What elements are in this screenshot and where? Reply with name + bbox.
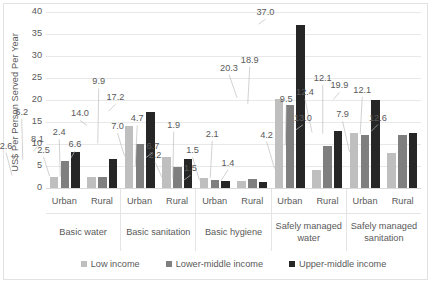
- y-axis-tick: 40: [32, 7, 42, 16]
- bar[interactable]: [50, 177, 59, 188]
- bar[interactable]: [398, 135, 407, 188]
- bar[interactable]: [71, 152, 80, 188]
- bar-group: [309, 12, 347, 188]
- x-axis: UrbanRuralUrbanRuralUrbanRuralUrbanRural…: [46, 188, 421, 250]
- plot-area: [46, 12, 421, 188]
- legend-swatch-icon: [289, 261, 295, 267]
- x-axis-subcategory-label: Rural: [84, 189, 122, 213]
- y-axis-tick: 20: [32, 95, 42, 104]
- x-axis-category-label: Basic sanitation: [121, 214, 196, 251]
- bar[interactable]: [200, 178, 209, 188]
- bar[interactable]: [350, 133, 359, 188]
- legend-item[interactable]: Low income: [81, 259, 140, 269]
- x-axis-subcategory-row: UrbanRuralUrbanRuralUrbanRuralUrbanRural…: [46, 189, 421, 213]
- bar-group: [234, 12, 272, 188]
- y-axis-tick: 10: [32, 139, 42, 148]
- x-axis-category-label: Basic hygiene: [196, 214, 271, 251]
- bar[interactable]: [409, 133, 418, 188]
- x-axis-subcategory-label: Rural: [234, 189, 272, 213]
- legend-swatch-icon: [81, 261, 87, 267]
- bar[interactable]: [146, 112, 155, 188]
- x-axis-subcategory-label: Rural: [159, 189, 197, 213]
- y-axis-title-text: US$ Per Person Served Per Year: [10, 33, 20, 172]
- bar[interactable]: [173, 167, 182, 188]
- y-axis-tick: 0: [37, 183, 42, 192]
- bar[interactable]: [184, 159, 193, 188]
- legend-swatch-icon: [166, 261, 172, 267]
- bar[interactable]: [221, 181, 230, 188]
- bar[interactable]: [312, 170, 321, 188]
- bar[interactable]: [387, 153, 396, 188]
- bar[interactable]: [98, 177, 107, 188]
- bar[interactable]: [109, 159, 118, 188]
- y-axis-tick: 5: [37, 161, 42, 170]
- x-axis-subcategory-label: Urban: [272, 189, 310, 213]
- x-axis-subcategory-label: Rural: [309, 189, 347, 213]
- bar[interactable]: [125, 126, 134, 188]
- y-axis-tick: 35: [32, 29, 42, 38]
- x-axis-category-label: Basic water: [46, 214, 121, 251]
- bar-group: [121, 12, 159, 188]
- chart-legend: Low incomeLower-middle incomeUpper-middl…: [46, 254, 421, 274]
- bar-group: [84, 12, 122, 188]
- legend-item[interactable]: Upper-middle income: [289, 259, 386, 269]
- bar-group: [46, 12, 84, 188]
- x-axis-subcategory-label: Urban: [347, 189, 385, 213]
- x-axis-category-label: Safely managed water: [272, 214, 347, 251]
- y-axis-tick: 30: [32, 51, 42, 60]
- bar-groups: [46, 12, 421, 188]
- x-axis-subcategory-label: Urban: [121, 189, 159, 213]
- bar[interactable]: [334, 131, 343, 188]
- bar[interactable]: [323, 146, 332, 188]
- bar[interactable]: [87, 177, 96, 188]
- bar[interactable]: [61, 161, 70, 188]
- bar-group: [346, 12, 384, 188]
- legend-label: Low income: [91, 259, 140, 269]
- bar[interactable]: [296, 25, 305, 188]
- y-axis-tick: 25: [32, 73, 42, 82]
- legend-label: Upper-middle income: [299, 259, 386, 269]
- x-axis-subcategory-label: Urban: [46, 189, 84, 213]
- bar[interactable]: [248, 179, 257, 188]
- x-axis-category-row: Basic waterBasic sanitationBasic hygiene…: [46, 213, 421, 251]
- bar[interactable]: [361, 135, 370, 188]
- bar[interactable]: [136, 144, 145, 188]
- x-axis-subcategory-label: Rural: [384, 189, 421, 213]
- bar-group: [271, 12, 309, 188]
- bar[interactable]: [237, 181, 246, 188]
- bar-group: [196, 12, 234, 188]
- bar[interactable]: [371, 100, 380, 188]
- bar[interactable]: [275, 99, 284, 188]
- chart-container: US$ Per Person Served Per Year 051015202…: [3, 3, 428, 280]
- legend-item[interactable]: Lower-middle income: [166, 259, 263, 269]
- bar[interactable]: [286, 105, 295, 188]
- legend-label: Lower-middle income: [176, 259, 263, 269]
- x-axis-category-label: Safely managed sanitation: [347, 214, 421, 251]
- y-axis-tick: 15: [32, 117, 42, 126]
- y-axis-title: US$ Per Person Served Per Year: [6, 4, 24, 200]
- bar-group: [384, 12, 422, 188]
- x-axis-subcategory-label: Urban: [196, 189, 234, 213]
- bar-group: [159, 12, 197, 188]
- y-axis-tick-labels: 0510152025303540: [24, 12, 44, 188]
- bar[interactable]: [211, 180, 220, 188]
- bar[interactable]: [162, 157, 171, 188]
